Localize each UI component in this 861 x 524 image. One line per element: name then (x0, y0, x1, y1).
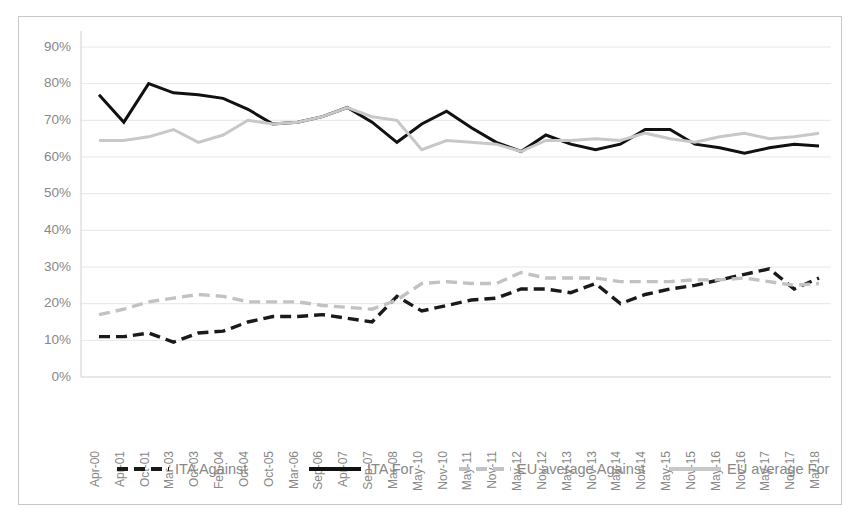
axis-lines (81, 31, 831, 377)
y-axis-tick-label: 70% (44, 112, 71, 127)
x-axis-tick-label: Nov-10 (436, 451, 450, 490)
y-axis-tick-label: 80% (44, 75, 71, 90)
x-axis-tick-label: Apr-00 (88, 451, 102, 487)
legend-label[interactable]: EU average Against (517, 461, 645, 477)
series-line-eu-average-against (99, 273, 819, 315)
legend-label[interactable]: ITA For (367, 461, 414, 477)
y-axis-tick-label: 30% (44, 259, 71, 274)
y-axis-tick-label: 20% (44, 295, 71, 310)
series-line-ita-against (99, 269, 819, 342)
y-axis-tick-labels: 90%80%70%60%50%40%30%20%10%0% (44, 39, 71, 384)
y-axis-tick-label: 90% (44, 39, 71, 54)
y-axis-tick-label: 50% (44, 185, 71, 200)
y-axis-tick-label: 10% (44, 332, 71, 347)
legend-label[interactable]: ITA Against (175, 461, 247, 477)
y-axis-tick-label: 40% (44, 222, 71, 237)
line-chart: 90%80%70%60%50%40%30%20%10%0% Apr-00Apr-… (19, 17, 841, 504)
chart-frame: 90%80%70%60%50%40%30%20%10%0% Apr-00Apr-… (18, 16, 842, 505)
chart-plot-area: 90%80%70%60%50%40%30%20%10%0% Apr-00Apr-… (19, 17, 841, 504)
y-axis-tick-label: 0% (51, 369, 71, 384)
gridlines (81, 47, 831, 340)
x-axis-tick-label: Mar-06 (287, 451, 301, 489)
x-axis-tick-label: Oct-05 (262, 451, 276, 487)
legend-label[interactable]: EU average For (727, 461, 830, 477)
series-line-eu-average-for (99, 108, 819, 152)
y-axis-tick-label: 60% (44, 149, 71, 164)
